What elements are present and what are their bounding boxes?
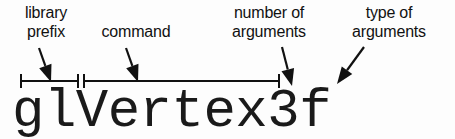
arrow-shaft	[282, 47, 288, 70]
label-type-of-arguments: type of arguments	[334, 3, 444, 41]
arrow-head	[39, 64, 51, 82]
label-library-prefix-line1: library	[8, 3, 84, 22]
arrow-head	[337, 66, 352, 84]
label-number-of-arguments-line2: arguments	[214, 22, 324, 41]
label-type-of-arguments-line1: type of	[334, 3, 444, 22]
label-type-of-arguments-line2: arguments	[334, 22, 444, 41]
label-command-line1: command	[88, 22, 184, 41]
code-token: glVertex3f	[12, 84, 331, 139]
arrow-head	[126, 64, 138, 82]
arrow-to-type-of-arguments	[337, 47, 364, 84]
annotated-code-figure: library prefix command number of argumen…	[0, 0, 455, 139]
label-command: command	[88, 22, 184, 41]
arrow-to-library-prefix	[39, 48, 51, 82]
label-library-prefix-line2: prefix	[8, 22, 84, 41]
arrow-shaft	[39, 48, 45, 66]
label-number-of-arguments-line1: number of	[214, 3, 324, 22]
label-library-prefix: library prefix	[8, 3, 84, 41]
arrow-to-command	[126, 48, 138, 82]
label-number-of-arguments: number of arguments	[214, 3, 324, 41]
arrow-shaft	[347, 47, 364, 70]
arrow-shaft	[126, 48, 132, 66]
